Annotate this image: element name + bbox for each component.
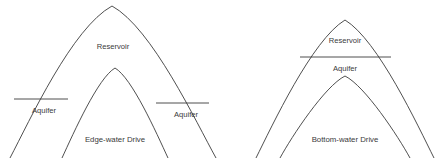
panel-bottom-water-drive: Reservoir Aquifer Bottom-water Drive: [256, 20, 434, 158]
edge-water-drive-caption: Edge-water Drive: [85, 135, 145, 144]
edge-water-aquifer-right-label: Aquifer: [174, 110, 199, 119]
panel-edge-water-drive: Reservoir Aquifer Aquifer Edge-water Dri…: [10, 6, 216, 158]
edge-water-reservoir-label: Reservoir: [97, 42, 130, 51]
bottom-water-inner-dome-curve: [280, 76, 410, 158]
bottom-water-aquifer-label: Aquifer: [333, 64, 358, 73]
bottom-water-drive-caption: Bottom-water Drive: [312, 135, 379, 144]
edge-water-inner-dome-curve: [62, 68, 168, 158]
geology-diagram-figure: Reservoir Aquifer Aquifer Edge-water Dri…: [0, 0, 448, 158]
bottom-water-reservoir-label: Reservoir: [329, 36, 362, 45]
edge-water-aquifer-left-label: Aquifer: [32, 106, 57, 115]
